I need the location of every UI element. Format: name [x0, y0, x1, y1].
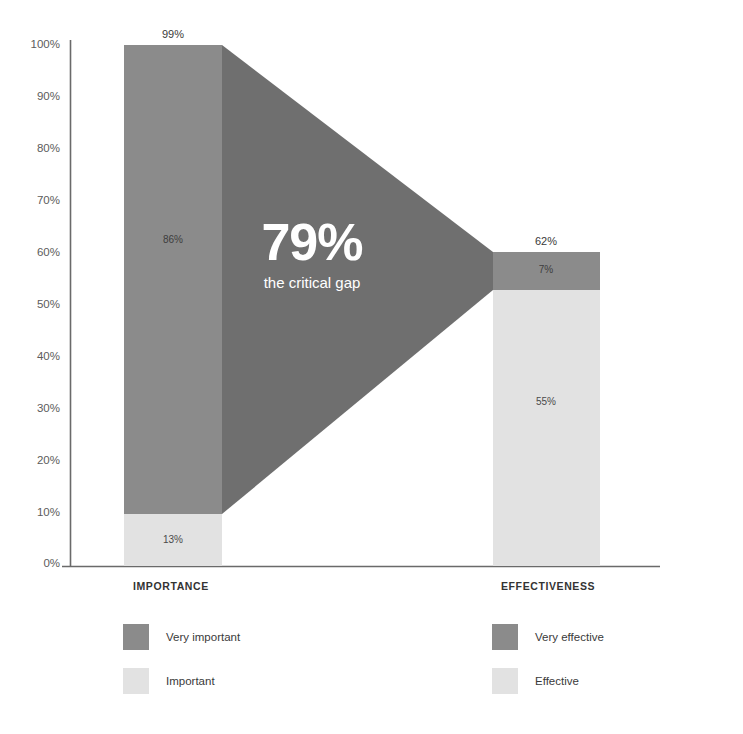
- y-tick-label-90: 90%: [37, 90, 60, 102]
- y-tick-label-50: 50%: [37, 298, 60, 310]
- y-tick-label-20: 20%: [37, 454, 60, 466]
- y-tick-label-0: 0%: [43, 557, 60, 569]
- legend-label-effective: Effective: [535, 675, 579, 687]
- y-tick-label-10: 10%: [37, 506, 60, 518]
- legend-swatch-effective: [492, 668, 518, 694]
- bar-effectiveness-effective: [493, 290, 600, 566]
- category-label-effectiveness: EFFECTIVENESS: [501, 580, 595, 592]
- bar-importance-important-label: 13%: [163, 534, 183, 545]
- legend-swatch-very-important: [123, 624, 149, 650]
- legend-label-important: Important: [166, 675, 215, 687]
- chart-container: 100% 90% 80% 70% 60% 50% 40% 30% 20% 10%…: [0, 0, 743, 734]
- bar-importance-very-important-label: 86%: [163, 234, 183, 245]
- gap-caption-label: the critical gap: [264, 274, 361, 291]
- y-tick-label-30: 30%: [37, 402, 60, 414]
- y-tick-label-100: 100%: [31, 38, 60, 50]
- legend-label-very-effective: Very effective: [535, 631, 604, 643]
- bar-importance-very-important: [124, 45, 222, 514]
- y-tick-label-80: 80%: [37, 142, 60, 154]
- bar-effectiveness-total-label: 62%: [535, 235, 557, 247]
- bar-effectiveness-effective-label: 55%: [536, 396, 556, 407]
- y-tick-label-40: 40%: [37, 350, 60, 362]
- bar-importance-total-label: 99%: [162, 28, 184, 40]
- legend-swatch-very-effective: [492, 624, 518, 650]
- bar-effectiveness-very-effective-label: 7%: [539, 264, 554, 275]
- category-label-importance: IMPORTANCE: [133, 580, 209, 592]
- y-tick-label-60: 60%: [37, 246, 60, 258]
- legend-swatch-important: [123, 668, 149, 694]
- stacked-bar-gap-chart: 100% 90% 80% 70% 60% 50% 40% 30% 20% 10%…: [0, 0, 743, 734]
- gap-value-label: 79%: [261, 213, 362, 271]
- legend-label-very-important: Very important: [166, 631, 241, 643]
- y-tick-label-70: 70%: [37, 194, 60, 206]
